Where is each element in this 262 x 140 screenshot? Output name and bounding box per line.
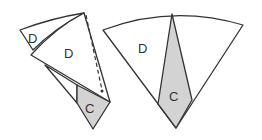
diagram-canvas: D D C D C xyxy=(0,0,262,140)
label-d-right: D xyxy=(138,41,147,56)
right-unfolded-sector xyxy=(103,14,243,128)
label-small-d: D xyxy=(28,31,37,46)
label-big-d: D xyxy=(64,46,73,61)
label-c-left: C xyxy=(85,101,94,116)
sector-diagram: D D C D C xyxy=(0,0,262,140)
fold-end-dot xyxy=(101,90,104,93)
label-c-right: C xyxy=(169,89,178,104)
